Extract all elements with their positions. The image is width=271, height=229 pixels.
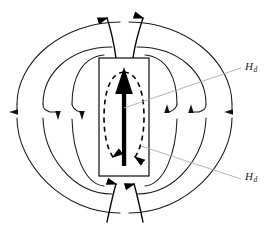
field-loop-right-inner xyxy=(145,55,177,186)
label-upper-subscript: d xyxy=(253,65,257,74)
pole-arrow-bottom-left xyxy=(107,184,116,222)
pole-arrow-top-left xyxy=(107,18,116,58)
label-lower-subscript: d xyxy=(253,175,257,184)
diagram-canvas xyxy=(0,0,271,229)
label-upper-symbol: H xyxy=(245,60,253,72)
south-pole-entering-arrows xyxy=(107,184,143,222)
demagnetizing-field-diagram: Hd Hd xyxy=(0,0,271,229)
leader-line-lower xyxy=(141,146,241,179)
pole-arrow-bottom-right xyxy=(134,184,143,222)
north-pole-emerging-arrows xyxy=(107,18,143,58)
pole-arrow-top-right xyxy=(133,18,143,58)
magnetization-arrow-shaft xyxy=(122,90,126,166)
label-demagnetizing-field-upper: Hd xyxy=(245,61,257,72)
label-lower-symbol: H xyxy=(245,170,253,182)
label-demagnetizing-field-lower: Hd xyxy=(245,171,257,182)
